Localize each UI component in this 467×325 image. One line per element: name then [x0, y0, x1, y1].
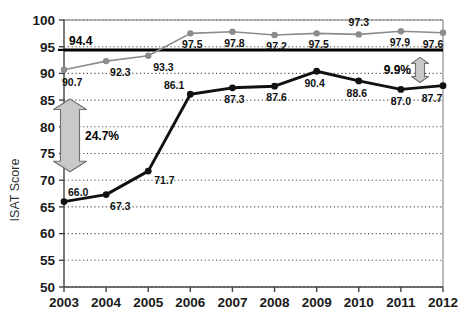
x-tick-label-2011: 2011	[386, 295, 416, 310]
y-tick-label-75: 75	[40, 146, 56, 161]
grey-series-label-2004: 92.3	[110, 66, 131, 78]
y-tick-label-60: 60	[40, 226, 55, 241]
y-tick-label-100: 100	[32, 13, 55, 28]
grey-series-point-2010	[356, 31, 362, 37]
gap-left-label: 24.7%	[85, 129, 119, 143]
grey-series-point-2005	[145, 53, 151, 59]
grey-series-point-2008	[271, 32, 277, 38]
dark-series-label-2009: 90.4	[304, 77, 325, 89]
grey-series-point-2003	[61, 66, 67, 72]
x-tick-label-2012: 2012	[428, 295, 458, 310]
dark-series-label-2003: 66.0	[68, 186, 89, 198]
grey-series-point-2006	[187, 30, 193, 36]
dark-series-label-2011: 87.0	[391, 95, 412, 107]
dark-series-point-2011	[397, 86, 404, 93]
y-tick-label-90: 90	[40, 66, 55, 81]
dark-series-point-2010	[355, 77, 362, 84]
dark-series-label-2007: 87.3	[224, 93, 245, 105]
dark-series-point-2012	[440, 82, 447, 89]
grey-series-label-2008: 97.2	[266, 40, 287, 52]
x-tick-label-2009: 2009	[302, 295, 332, 310]
x-tick-label-2005: 2005	[133, 295, 164, 310]
dark-series-label-2012: 87.7	[422, 92, 443, 104]
grey-series-label-2003: 90.7	[62, 76, 83, 88]
y-tick-label-85: 85	[40, 93, 56, 108]
isat-score-line-chart: 50556065707580859095100 2003200420052006…	[0, 0, 467, 325]
grey-series-label-2010: 97.3	[349, 16, 370, 28]
grey-series-label-2006: 97.5	[182, 38, 203, 50]
y-tick-label-65: 65	[40, 200, 56, 215]
grey-series-label-2009: 97.5	[308, 38, 329, 50]
x-tick-label-2006: 2006	[175, 295, 206, 310]
grey-series-label-2012: 97.6	[423, 38, 444, 50]
dark-series-point-2003	[61, 198, 68, 205]
dark-series-point-2005	[145, 168, 152, 175]
grey-series-label-2007: 97.8	[224, 37, 245, 49]
y-tick-label-50: 50	[40, 280, 55, 295]
dark-series-point-2007	[229, 84, 236, 91]
grey-series-point-2004	[103, 58, 109, 64]
dark-series-label-2006: 86.1	[164, 79, 185, 91]
dark-series-label-2004: 67.3	[110, 200, 131, 212]
grey-series-point-2009	[313, 30, 319, 36]
gap-right-label: 9.9%	[384, 63, 412, 77]
y-tick-label-55: 55	[40, 253, 56, 268]
grey-series-label-2011: 97.9	[390, 36, 411, 48]
dark-series-point-2008	[271, 83, 278, 90]
grey-series-point-2007	[229, 29, 235, 35]
y-axis-title: ISAT Score	[8, 159, 22, 222]
y-tick-label-70: 70	[40, 173, 55, 188]
y-tick-label-95: 95	[40, 40, 56, 55]
dark-series-label-2005: 71.7	[154, 174, 175, 186]
x-tick-label-2008: 2008	[260, 295, 291, 310]
grey-series-label-2005: 93.3	[153, 61, 174, 73]
chart-canvas: 50556065707580859095100 2003200420052006…	[0, 0, 467, 325]
x-tick-label-2003: 2003	[49, 295, 80, 310]
y-tick-label-80: 80	[40, 120, 55, 135]
dark-series-label-2010: 88.6	[347, 87, 368, 99]
grey-series-point-2011	[398, 28, 404, 34]
reference-line-label: 94.4	[69, 34, 93, 48]
dark-series-point-2004	[103, 191, 110, 198]
dark-series-label-2008: 87.6	[266, 91, 287, 103]
x-tick-label-2007: 2007	[217, 295, 247, 310]
dark-series-point-2009	[313, 68, 320, 75]
dark-series-point-2006	[187, 91, 194, 98]
grey-series-point-2012	[440, 30, 446, 36]
x-tick-label-2004: 2004	[91, 295, 122, 310]
x-tick-label-2010: 2010	[344, 295, 374, 310]
